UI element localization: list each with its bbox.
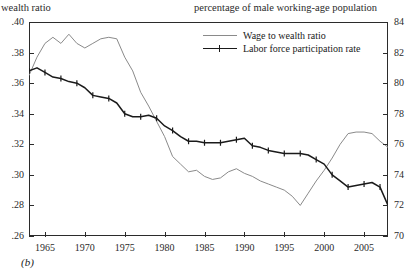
chart-legend: Wage to wealth ratio Labor force partici… — [203, 29, 360, 55]
x-axis-tick — [205, 232, 206, 237]
legend-label: Labor force participation rate — [243, 42, 360, 55]
x-axis-tick-label: 1965 — [35, 243, 55, 253]
y2-axis-tick-label: 82 — [394, 48, 404, 58]
y2-axis-tick — [383, 114, 388, 115]
y-axis-tick — [29, 144, 34, 145]
x-axis-tick-label: 1970 — [75, 243, 95, 253]
x-axis-tick-label: 2005 — [354, 243, 374, 253]
y2-axis-tick-label: 78 — [394, 109, 404, 119]
x-axis-tick-label: 1990 — [234, 243, 254, 253]
x-axis-tick-label: 1975 — [115, 243, 135, 253]
left-axis-header: wealth ratio — [1, 1, 51, 15]
y-axis-tick-label: .38 — [12, 48, 25, 58]
x-axis-tick — [165, 232, 166, 237]
legend-item-labor-force-participation-rate: Labor force participation rate — [203, 42, 360, 55]
y2-axis-tick — [383, 53, 388, 54]
panel-caption: (b) — [21, 256, 34, 268]
y-axis-tick — [29, 175, 34, 176]
y-axis-tick-label: .36 — [12, 78, 25, 88]
y2-axis-tick — [383, 205, 388, 206]
y-axis-tick-label: .32 — [12, 139, 25, 149]
y-axis-tick — [29, 236, 34, 237]
y-axis-tick-label: .28 — [12, 200, 25, 210]
chart-header: wealth ratio percentage of male working-… — [0, 0, 418, 16]
y-axis-tick — [29, 205, 34, 206]
right-axis-header: percentage of male working-age populatio… — [194, 1, 377, 15]
y2-axis-tick — [383, 22, 388, 23]
y2-axis-tick-label: 74 — [394, 170, 404, 180]
y2-axis-tick-label: 70 — [394, 231, 404, 241]
y-axis-tick-label: .30 — [12, 170, 25, 180]
x-axis-tick — [85, 232, 86, 237]
y-axis-tick-label: .26 — [12, 231, 25, 241]
x-axis-tick — [125, 232, 126, 237]
x-axis-tick — [244, 232, 245, 237]
y2-axis-tick — [383, 236, 388, 237]
legend-label: Wage to wealth ratio — [243, 29, 326, 42]
y-axis-tick — [29, 53, 34, 54]
x-axis-tick-label: 1985 — [195, 243, 215, 253]
y-axis-tick-label: .40 — [12, 17, 25, 27]
x-axis-tick — [324, 232, 325, 237]
y-axis-tick — [29, 114, 34, 115]
series-line — [29, 68, 388, 206]
y-axis-tick-label: .34 — [12, 109, 25, 119]
x-axis-tick — [364, 232, 365, 237]
legend-swatch-cross-icon — [203, 43, 237, 54]
y2-axis-tick — [383, 144, 388, 145]
x-axis-tick-label: 1995 — [274, 243, 294, 253]
y2-axis-tick-label: 80 — [394, 78, 404, 88]
x-axis-tick — [45, 232, 46, 237]
y2-axis-tick — [383, 83, 388, 84]
y-axis-tick — [29, 22, 34, 23]
series-line — [29, 34, 388, 205]
y2-axis-tick-label: 84 — [394, 17, 404, 27]
legend-item-wage-to-wealth-ratio: Wage to wealth ratio — [203, 29, 360, 42]
y2-axis-tick-label: 76 — [394, 139, 404, 149]
legend-swatch-line-icon — [203, 30, 237, 41]
y-axis-tick — [29, 83, 34, 84]
x-axis-tick-label: 1980 — [155, 243, 175, 253]
y2-axis-tick — [383, 175, 388, 176]
x-axis-tick — [284, 232, 285, 237]
y2-axis-tick-label: 72 — [394, 200, 404, 210]
x-axis-tick-label: 2000 — [314, 243, 334, 253]
